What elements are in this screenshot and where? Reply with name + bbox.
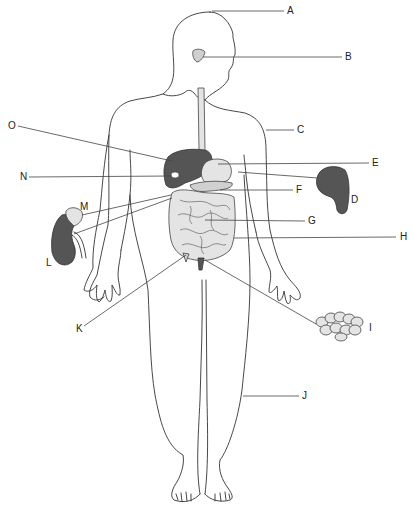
label-f: F [296, 185, 302, 195]
rectum [198, 258, 204, 270]
label-h: H [400, 232, 407, 242]
stomach [201, 159, 231, 183]
label-j: J [302, 391, 307, 401]
label-a: A [287, 6, 294, 16]
organs [52, 49, 363, 341]
label-o: O [8, 121, 16, 131]
label-g: G [308, 216, 316, 226]
anatomy-diagram [0, 0, 414, 517]
label-m: M [80, 202, 88, 212]
head-gland [193, 49, 205, 62]
label-l: L [46, 258, 52, 268]
appendix [183, 253, 189, 262]
label-d: D [351, 195, 358, 205]
label-c: C [297, 125, 304, 135]
label-i: I [369, 323, 372, 333]
gallbladder [171, 172, 179, 178]
label-n: N [20, 172, 27, 182]
fat-cells [316, 312, 363, 341]
label-b: B [345, 52, 352, 62]
spleen [316, 167, 349, 214]
label-e: E [372, 158, 379, 168]
label-k: K [76, 324, 83, 334]
